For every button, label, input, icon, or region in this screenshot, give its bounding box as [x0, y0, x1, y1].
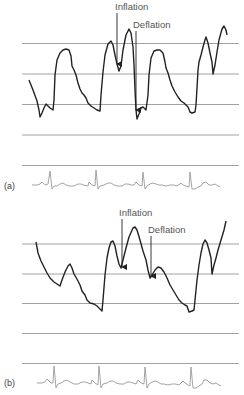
iabp-waveform-figure: Inflation Deflation (a) Inflation Deflat…	[0, 0, 244, 395]
panel-b-gridlines	[22, 244, 239, 364]
annotation-deflation-b: Deflation	[148, 224, 186, 276]
ecg-trace-b	[37, 366, 221, 388]
inflation-label-a: Inflation	[115, 1, 148, 12]
panel-label-b: (b)	[4, 378, 15, 388]
panel-a-gridlines	[22, 44, 239, 166]
panel-b: Inflation Deflation (b)	[4, 207, 239, 388]
panel-label-a: (a)	[4, 181, 15, 191]
deflation-label-a: Deflation	[133, 19, 171, 30]
annotation-inflation-a: Inflation	[115, 1, 148, 64]
inflation-label-b: Inflation	[119, 207, 152, 218]
pressure-trace-b	[36, 221, 226, 312]
ecg-trace-a	[32, 170, 220, 189]
pressure-trace-a	[29, 26, 227, 119]
deflation-label-b: Deflation	[148, 224, 186, 235]
panel-a: Inflation Deflation (a)	[4, 1, 239, 191]
